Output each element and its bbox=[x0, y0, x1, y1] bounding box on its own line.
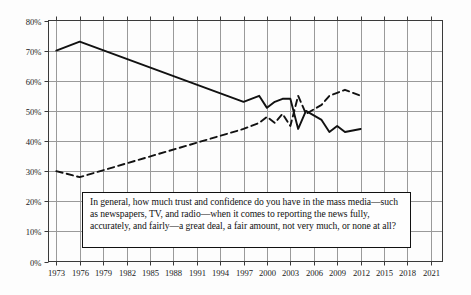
y-tick-label: 30% bbox=[26, 167, 42, 177]
question-callout-box: In general, how much trust and confidenc… bbox=[82, 192, 411, 248]
y-tick-label: 50% bbox=[26, 107, 42, 117]
y-tick-label: 10% bbox=[26, 227, 42, 237]
x-tick-label: 1973 bbox=[48, 268, 65, 278]
y-tick-label: 0% bbox=[30, 258, 41, 268]
y-tick-label: 70% bbox=[26, 47, 42, 57]
x-tick-label: 2003 bbox=[282, 268, 299, 278]
x-tick-label: 1982 bbox=[119, 268, 136, 278]
x-tick-label: 1994 bbox=[212, 268, 230, 278]
x-tick-label: 1991 bbox=[189, 268, 206, 278]
x-tick-label: 1988 bbox=[165, 268, 182, 278]
x-tick-label: 1979 bbox=[95, 268, 112, 278]
y-axis-tick-labels: 0%10%20%30%40%50%60%70%80% bbox=[26, 17, 42, 268]
x-tick-label: 2006 bbox=[306, 268, 324, 278]
y-tick-label: 60% bbox=[26, 77, 42, 87]
x-tick-label: 2021 bbox=[423, 268, 440, 278]
x-tick-label: 2000 bbox=[259, 268, 276, 278]
x-tick-label: 2012 bbox=[353, 268, 370, 278]
x-axis-tick-labels: 1973197619791982198519881991199419972000… bbox=[48, 268, 440, 278]
y-tick-label: 80% bbox=[26, 17, 42, 27]
chart-figure: 0%10%20%30%40%50%60%70%80% 1973197619791… bbox=[0, 0, 471, 295]
x-tick-label: 1997 bbox=[236, 268, 254, 278]
media-trust-line-chart: 0%10%20%30%40%50%60%70%80% 1973197619791… bbox=[0, 0, 471, 295]
x-tick-label: 1976 bbox=[72, 268, 90, 278]
x-tick-label: 2015 bbox=[376, 268, 393, 278]
x-tick-label: 2009 bbox=[329, 268, 346, 278]
x-tick-label: 1985 bbox=[142, 268, 159, 278]
x-tick-label: 2018 bbox=[399, 268, 416, 278]
question-text: In general, how much trust and confidenc… bbox=[90, 196, 404, 233]
y-tick-label: 20% bbox=[26, 197, 42, 207]
y-tick-label: 40% bbox=[26, 137, 42, 147]
